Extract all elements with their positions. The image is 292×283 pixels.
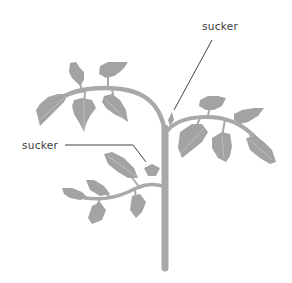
label-sucker-lower: sucker	[22, 139, 58, 151]
leaf	[99, 62, 128, 78]
leaf	[199, 96, 226, 110]
leaf	[62, 188, 88, 200]
label-sucker-upper: sucker	[202, 20, 238, 32]
leaf	[130, 194, 146, 218]
leaf	[69, 62, 84, 86]
sucker-lower	[144, 164, 160, 176]
leaf	[88, 202, 106, 224]
leader-line-left	[65, 145, 146, 162]
leaf	[86, 180, 110, 196]
leaf	[234, 108, 264, 124]
leaves	[36, 62, 276, 224]
tomato-plant-diagram: sucker sucker	[0, 0, 292, 283]
